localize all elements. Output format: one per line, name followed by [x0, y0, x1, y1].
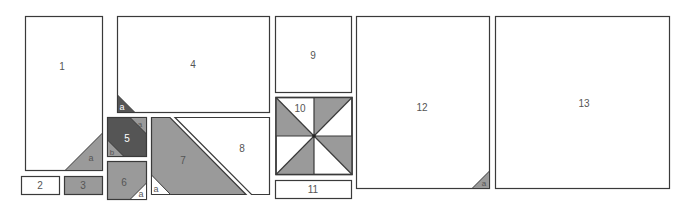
piece-2: 2 [22, 177, 60, 195]
piece-9: 9 [276, 17, 352, 93]
piece-6: 6 a [108, 162, 147, 200]
piece-7a-label: a [153, 184, 158, 194]
piece-10-pinwheel: 10 [276, 98, 352, 175]
piece-3-label: 3 [80, 180, 86, 191]
piece-10-label: 10 [294, 103, 306, 114]
piece-12a-label: a [482, 179, 487, 188]
piece-4-label: 4 [190, 59, 196, 70]
piece-5a-label: a [138, 120, 143, 129]
quilt-layout-diagram: 1 a 2 3 4 a 5 a b 6 a 7 a [0, 0, 684, 201]
piece-4: 4 a [118, 17, 270, 113]
piece-7-label: 7 [180, 155, 186, 166]
piece-13: 13 [496, 17, 670, 189]
piece-6-label: 6 [121, 177, 127, 188]
piece-2-label: 2 [37, 180, 43, 191]
piece-12-label: 12 [416, 102, 428, 113]
piece-5b-label: b [110, 148, 115, 157]
piece-6a-label: a [138, 189, 143, 199]
piece-13-label: 13 [578, 98, 590, 109]
piece-9-label: 9 [310, 50, 316, 61]
piece-1: 1 a [26, 17, 103, 171]
piece-5-label: 5 [124, 133, 130, 144]
piece-12: 12 a [357, 17, 490, 189]
piece-8-label: 8 [239, 143, 245, 154]
piece-1a-label: a [88, 153, 93, 163]
piece-3: 3 [65, 177, 103, 195]
piece-11-label: 11 [308, 184, 319, 195]
piece-5: 5 a b [108, 118, 147, 158]
piece-4a-label: a [119, 102, 124, 112]
piece-11: 11 [276, 181, 352, 199]
piece-1-label: 1 [59, 61, 65, 72]
